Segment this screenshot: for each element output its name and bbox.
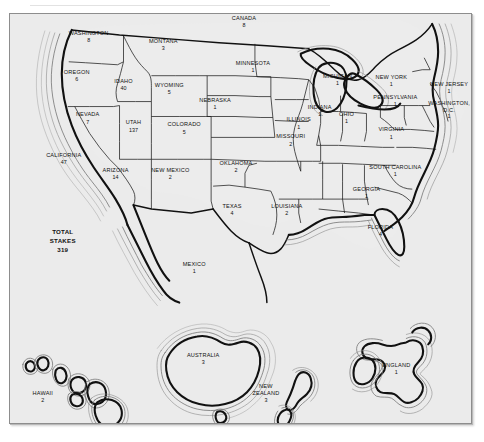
region-value: 5 [168, 89, 171, 95]
region-value: 2 [289, 141, 292, 147]
region-value: 1 [395, 369, 398, 375]
england-outline [350, 323, 436, 413]
region-name: ARIZONA [103, 167, 129, 173]
region-name: MISSOURI [276, 133, 305, 139]
region-name: INDIANA [308, 104, 332, 110]
region-value: 1 [448, 113, 451, 119]
region-label-mexico: MEXICO1 [183, 261, 207, 274]
region-value: 1 [297, 124, 300, 130]
region-value: 3 [264, 397, 267, 403]
map-frame: WASHINGTON8OREGON6IDAHO40MONTANA3WYOMING… [9, 13, 472, 424]
region-name: FLORIDA [368, 224, 393, 230]
region-value: 2 [285, 210, 288, 216]
region-name: SOUTH CAROLINA [369, 164, 421, 170]
region-label-england: ENGLAND1 [382, 362, 410, 375]
australia-outline [157, 324, 275, 423]
region-label-australia: AUSTRALIA3 [187, 352, 220, 365]
region-value: 1 [336, 80, 339, 86]
region-value: 1 [448, 88, 451, 94]
region-value: 1 [394, 101, 397, 107]
region-value: 7 [86, 119, 89, 125]
region-value: 5 [183, 129, 186, 135]
stakes-distribution-map: WASHINGTON8OREGON6IDAHO40MONTANA3WYOMING… [0, 0, 484, 442]
region-value: 3 [202, 359, 205, 365]
region-name: CALIFORNIA [46, 152, 81, 158]
region-name: CANADA [232, 15, 256, 21]
new-zealand-outline [274, 367, 318, 423]
region-value: 3 [162, 45, 165, 51]
region-value: 2 [169, 174, 172, 180]
region-value: 1 [390, 134, 393, 140]
region-name: LOUISIANA [271, 203, 302, 209]
region-name: NEVADA [76, 112, 100, 118]
region-name: ENGLAND [382, 362, 410, 368]
total-stakes-line1: TOTAL [52, 228, 73, 235]
total-stakes-value: 319 [57, 246, 68, 253]
region-name: UTAH [126, 119, 141, 125]
region-name: TEXAS [222, 203, 241, 209]
region-name: COLORADO [168, 121, 202, 127]
region-value: 14 [113, 174, 119, 180]
region-name-line2: ZEALAND [252, 390, 279, 396]
region-name: VIRGINIA [378, 126, 404, 132]
region-value: 2 [41, 397, 44, 403]
region-value: 1 [251, 67, 254, 73]
region-name: OHIO [339, 111, 354, 117]
region-value: 2 [235, 167, 238, 173]
region-name: WYOMING [155, 82, 184, 88]
region-name: NEW YORK [376, 74, 408, 80]
scan-artifact-strip [0, 0, 484, 12]
region-name: AUSTRALIA [187, 352, 220, 358]
region-name: HAWAII [33, 390, 54, 396]
region-name: WASHINGTON [69, 30, 109, 36]
region-value: 4 [231, 210, 234, 216]
region-name: MICHIGAN [323, 73, 352, 79]
region-name-line1: NEW [259, 383, 273, 389]
region-name: NEW JERSEY [430, 81, 468, 87]
region-value: 8 [242, 22, 245, 28]
region-name: GEORGIA [353, 186, 380, 192]
map-canvas: WASHINGTON8OREGON6IDAHO40MONTANA3WYOMING… [10, 14, 471, 423]
region-name: MONTANA [149, 38, 178, 44]
region-name: IDAHO [114, 78, 133, 84]
total-stakes-block: TOTAL STAKES 319 [50, 228, 76, 253]
region-value: 47 [61, 159, 67, 165]
region-value: 1 [365, 193, 368, 199]
region-name: OKLAHOMA [220, 160, 253, 166]
region-value: 137 [129, 127, 138, 133]
region-name: NEBRASKA [199, 97, 231, 103]
region-value: 1 [345, 118, 348, 124]
region-value: 1 [214, 104, 217, 110]
region-value: 6 [75, 76, 78, 82]
total-stakes-line2: STAKES [50, 237, 76, 244]
hawaii-islands [23, 355, 128, 423]
region-value: 1 [318, 111, 321, 117]
region-name-line1: WASHINGTON, [428, 100, 470, 106]
region-name: OREGON [64, 69, 90, 75]
region-value: 1 [193, 268, 196, 274]
region-value: 40 [121, 85, 127, 91]
region-name: MINNESOTA [236, 60, 270, 66]
region-name: PENNSYLVANIA [373, 94, 417, 100]
region-value: 1 [394, 171, 397, 177]
region-value: 4 [379, 231, 382, 237]
region-name: NEW MEXICO [151, 167, 190, 173]
region-label-hawaii: HAWAII2 [33, 390, 54, 403]
region-value: 1 [390, 81, 393, 87]
region-name-line2: D.C. [443, 107, 455, 113]
region-value: 8 [87, 37, 90, 43]
region-name: ILLINOIS [287, 116, 311, 122]
region-name: MEXICO [183, 261, 207, 267]
